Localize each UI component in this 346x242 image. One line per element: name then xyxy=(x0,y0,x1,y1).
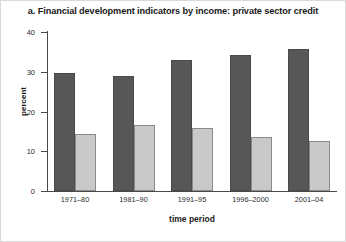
x-axis-tick-label: 1991–95 xyxy=(165,195,219,207)
x-axis-tick-label: 1996–2000 xyxy=(224,195,278,207)
bar-group xyxy=(54,32,96,191)
bar-group xyxy=(230,32,272,191)
y-axis-tick-label: 30 xyxy=(0,68,35,77)
bar-series-container xyxy=(48,32,336,191)
bar xyxy=(113,76,134,191)
chart-figure: a. Financial development indicators by i… xyxy=(0,0,346,242)
bar-group xyxy=(113,32,155,191)
bar xyxy=(251,137,272,191)
x-axis-tick-label: 2001–04 xyxy=(282,195,336,207)
y-axis-tick xyxy=(41,191,47,192)
chart-title: a. Financial development indicators by i… xyxy=(1,6,345,16)
x-axis-tick-labels: 1971–801981–901991–951996–20002001–04 xyxy=(48,195,336,207)
bar xyxy=(134,125,155,191)
x-axis-tick-label: 1981–90 xyxy=(107,195,161,207)
bar xyxy=(171,60,192,191)
y-axis-tick xyxy=(41,112,47,113)
y-axis-tick xyxy=(41,32,47,33)
y-axis-tick-label: 10 xyxy=(0,147,35,156)
bar-group xyxy=(288,32,330,191)
x-axis-tick-label: 1971–80 xyxy=(48,195,102,207)
bar xyxy=(54,73,75,191)
x-axis-line xyxy=(47,191,337,192)
bar xyxy=(230,55,251,191)
y-axis-tick xyxy=(41,151,47,152)
bar-group xyxy=(171,32,213,191)
bar xyxy=(288,49,309,191)
bar xyxy=(309,141,330,191)
y-axis-title: percent xyxy=(19,72,28,132)
y-axis-tick-label: 0 xyxy=(0,187,35,196)
y-axis-tick-label: 40 xyxy=(0,28,35,37)
x-axis-title: time period xyxy=(48,214,336,224)
y-axis-tick-label: 20 xyxy=(0,108,35,117)
y-axis-tick xyxy=(41,72,47,73)
bar xyxy=(75,134,96,191)
bar xyxy=(192,128,213,191)
